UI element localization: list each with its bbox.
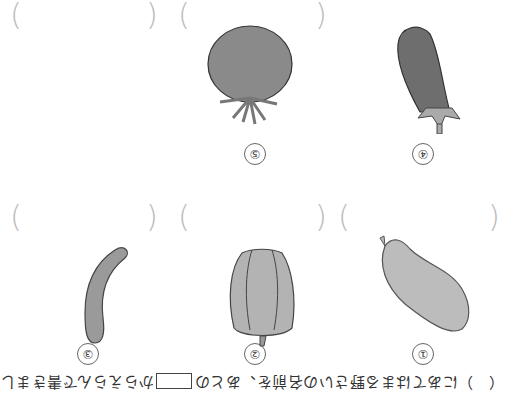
- instruction-after: からえらんで書きましょう。: [0, 373, 154, 391]
- answer-bracket-open-3: (: [146, 201, 158, 236]
- answer-bracket-close-1: ): [338, 201, 350, 236]
- instruction-text: （ ）にあてはまる野さいの名前を、あとのからえらんで書きましょう。: [0, 373, 504, 394]
- answer-bracket-open-5: (: [315, 0, 327, 34]
- instruction-before: （ ）にあてはまる野さいの名前を、あとの: [194, 373, 504, 391]
- choice-box: [156, 374, 192, 390]
- answer-bracket-open-2: (: [315, 201, 327, 236]
- item-number-4: ④: [412, 143, 434, 165]
- green-pepper-image: [222, 243, 302, 348]
- cucumber-image: [45, 238, 135, 348]
- sweet-potato-image: [370, 229, 480, 344]
- answer-bracket-open-1: (: [488, 201, 500, 236]
- answer-bracket-close-5: ): [178, 0, 190, 34]
- answer-bracket-close-4: ): [10, 0, 22, 34]
- tomato-image: [205, 21, 295, 126]
- worksheet-page: （ ）にあてはまる野さいの名前を、あとのからえらんで書きましょう。 ① ② ③ …: [0, 0, 510, 396]
- eggplant-image: [390, 19, 470, 134]
- item-number-5: ⑤: [244, 143, 266, 165]
- answer-bracket-close-3: ): [10, 201, 22, 236]
- answer-bracket-close-2: ): [178, 201, 190, 236]
- answer-bracket-open-4: (: [146, 0, 158, 34]
- item-number-1: ①: [412, 343, 434, 365]
